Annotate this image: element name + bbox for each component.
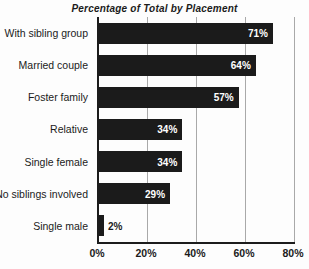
- category-label: Relative: [0, 113, 93, 145]
- chart-title: Percentage of Total by Placement: [0, 3, 309, 14]
- bar-row: 71%: [99, 17, 295, 49]
- category-label: With sibling group: [0, 17, 93, 49]
- bar-value-label: 29%: [145, 188, 165, 199]
- bar-row: 29%: [99, 178, 295, 210]
- bar-value-label: 2%: [108, 220, 122, 231]
- bar-value-label: 57%: [214, 92, 234, 103]
- bar: 57%: [99, 87, 239, 108]
- bar-row: 34%: [99, 113, 295, 145]
- x-tick-label: 80%: [282, 247, 303, 259]
- bar: 2%: [99, 215, 104, 236]
- x-tick-label: 60%: [233, 247, 254, 259]
- bar: 34%: [99, 151, 182, 172]
- plot-area: 71%64%57%34%34%29%2%: [97, 17, 295, 244]
- bar-value-label: 34%: [157, 124, 177, 135]
- bar: 29%: [99, 183, 170, 204]
- bar: 71%: [99, 23, 273, 44]
- bar-row: 2%: [99, 210, 295, 242]
- x-tick-label: 0%: [89, 247, 104, 259]
- x-tick-label: 40%: [184, 247, 205, 259]
- bars-container: 71%64%57%34%34%29%2%: [99, 17, 295, 242]
- category-label: Married couple: [0, 49, 93, 81]
- bar: 34%: [99, 119, 182, 140]
- bar-value-label: 64%: [231, 60, 251, 71]
- category-label: Single female: [0, 146, 93, 178]
- category-label: No siblings involved: [0, 178, 93, 210]
- category-label: Foster family: [0, 81, 93, 113]
- x-tick-label: 20%: [135, 247, 156, 259]
- category-label: Single male: [0, 210, 93, 242]
- bar: 64%: [99, 55, 256, 76]
- bar-value-label: 34%: [157, 156, 177, 167]
- category-axis-labels: With sibling groupMarried coupleFoster f…: [0, 17, 93, 242]
- bar-row: 64%: [99, 49, 295, 81]
- bar-chart: Percentage of Total by Placement With si…: [0, 0, 309, 269]
- bar-row: 34%: [99, 146, 295, 178]
- bar-row: 57%: [99, 81, 295, 113]
- bar-value-label: 71%: [248, 28, 268, 39]
